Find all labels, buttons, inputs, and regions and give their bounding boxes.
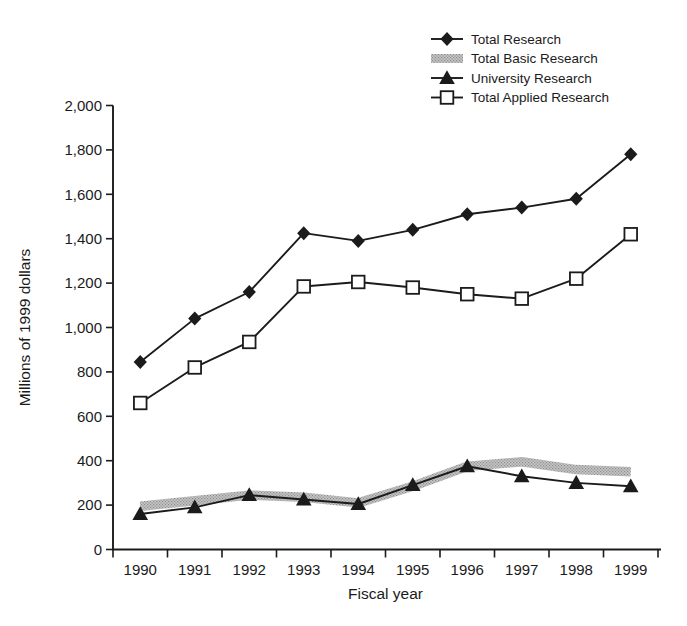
series-total-research — [134, 147, 638, 369]
y-tick-label: 1,400 — [64, 230, 102, 247]
line-chart-canvas: 02004006008001,0001,2001,4001,6001,8002,… — [0, 0, 687, 626]
legend-item-total-basic-research: Total Basic Research — [431, 51, 598, 66]
open-square-marker-icon — [134, 397, 147, 410]
filled-diamond-marker-icon — [134, 355, 147, 369]
legend-label: Total Basic Research — [471, 51, 598, 66]
legend-band-swatch-icon — [431, 54, 463, 63]
open-square-marker-icon — [624, 228, 637, 241]
open-square-marker-icon — [297, 280, 310, 293]
y-tick-label: 1,800 — [64, 141, 102, 158]
open-square-marker-icon — [461, 288, 474, 301]
y-tick-label: 400 — [77, 452, 102, 469]
open-square-marker-icon — [188, 361, 201, 374]
open-square-marker-icon — [243, 336, 256, 349]
y-tick-label: 800 — [77, 363, 102, 380]
y-tick-label: 0 — [94, 541, 102, 558]
research-funding-figure: 02004006008001,0001,2001,4001,6001,8002,… — [0, 0, 687, 626]
filled-diamond-marker-icon — [188, 312, 201, 326]
legend-label: Total Research — [471, 32, 561, 47]
y-tick-label: 1,200 — [64, 274, 102, 291]
x-tick-label: 1992 — [233, 561, 266, 578]
x-axis-ticks: 1990199119921993199419951996199719981999 — [113, 550, 658, 578]
filled-diamond-marker-icon — [515, 201, 528, 215]
y-tick-label: 1,600 — [64, 186, 102, 203]
y-tick-label: 200 — [77, 496, 102, 513]
x-tick-label: 1990 — [124, 561, 157, 578]
line-path — [140, 234, 631, 403]
x-axis-title: Fiscal year — [348, 585, 423, 602]
open-square-marker-icon — [570, 272, 583, 285]
line-path — [140, 154, 631, 362]
open-square-marker-icon — [406, 281, 419, 294]
x-tick-label: 1999 — [614, 561, 647, 578]
x-tick-label: 1997 — [505, 561, 538, 578]
legend-item-university-research: University Research — [431, 70, 592, 86]
legend: Total ResearchTotal Basic ResearchUniver… — [431, 32, 609, 106]
legend-item-total-applied-research: Total Applied Research — [431, 90, 609, 105]
x-tick-label: 1993 — [287, 561, 320, 578]
x-tick-label: 1991 — [178, 561, 211, 578]
legend-label: Total Applied Research — [471, 90, 609, 105]
y-tick-label: 600 — [77, 408, 102, 425]
x-tick-label: 1996 — [451, 561, 484, 578]
legend-label: University Research — [471, 71, 592, 86]
legend-item-total-research: Total Research — [431, 32, 561, 47]
y-tick-label: 2,000 — [64, 97, 102, 114]
series-total-applied-research — [134, 228, 637, 409]
y-axis-ticks: 02004006008001,0001,2001,4001,6001,8002,… — [64, 97, 113, 558]
x-tick-label: 1995 — [396, 561, 429, 578]
open-square-marker-icon — [352, 276, 365, 289]
filled-diamond-marker-icon — [461, 207, 474, 221]
series-total-basic-research — [140, 462, 631, 506]
filled-diamond-marker-icon — [406, 223, 419, 237]
filled-diamond-marker-icon — [440, 32, 453, 46]
band-path — [140, 462, 631, 506]
y-tick-label: 1,000 — [64, 319, 102, 336]
open-square-marker-icon — [515, 292, 528, 305]
x-tick-label: 1998 — [560, 561, 593, 578]
y-axis-title: Millions of 1999 dollars — [16, 248, 33, 406]
x-tick-label: 1994 — [342, 561, 375, 578]
open-square-marker-icon — [441, 91, 454, 104]
filled-diamond-marker-icon — [352, 234, 365, 248]
